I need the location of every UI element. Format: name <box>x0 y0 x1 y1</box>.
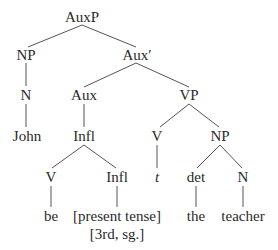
leaf-teacher: teacher <box>221 209 264 224</box>
node-v-infl: V <box>46 170 57 185</box>
tree-edge <box>52 145 84 168</box>
tree-edge <box>220 145 242 168</box>
node-det: det <box>187 170 205 185</box>
leaf-be: be <box>44 209 58 224</box>
node-np-subject: NP <box>16 48 35 63</box>
tree-edge <box>189 104 219 127</box>
leaf-trace: t <box>155 170 159 185</box>
node-aux-bar: Aux′ <box>122 48 151 63</box>
node-aux: Aux <box>71 88 97 103</box>
tree-edge <box>84 145 116 168</box>
node-infl-lower: Infl <box>106 170 128 185</box>
leaf-the: the <box>187 209 205 224</box>
leaf-third-singular: [3rd, sg.] <box>90 227 145 242</box>
leaf-john: John <box>13 129 41 144</box>
node-np-object: NP <box>210 129 229 144</box>
node-auxp: AuxP <box>65 10 99 25</box>
node-infl-upper: Infl <box>73 129 95 144</box>
node-v-vp: V <box>152 129 163 144</box>
tree-edge <box>84 63 136 87</box>
tree-edge <box>82 25 136 47</box>
tree-edge <box>160 104 189 127</box>
tree-edge <box>28 25 82 47</box>
tree-edge <box>197 145 220 168</box>
node-vp: VP <box>179 88 198 103</box>
node-n-subject: N <box>21 88 32 103</box>
leaf-present-tense: [present tense] <box>73 209 161 224</box>
node-n-object: N <box>238 170 249 185</box>
tree-edge <box>136 63 189 87</box>
